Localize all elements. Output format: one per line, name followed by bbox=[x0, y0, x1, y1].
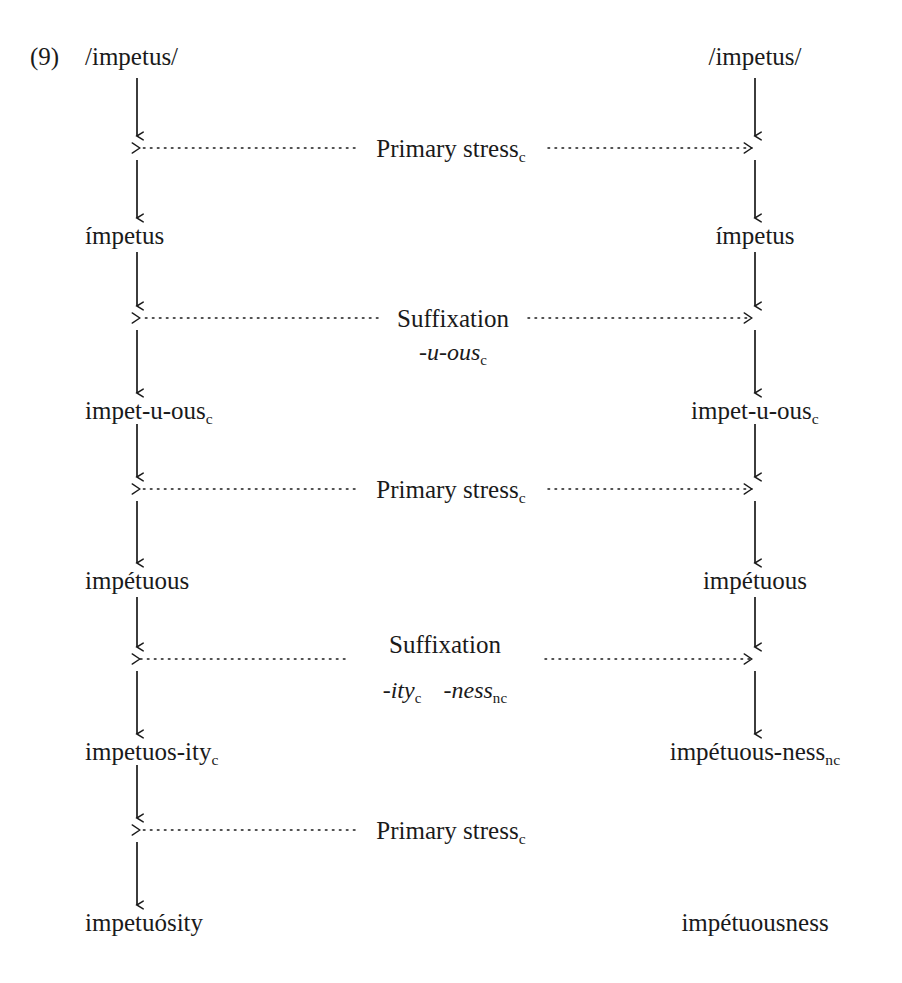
right-form-impet-u-ous-sub: c bbox=[812, 410, 819, 427]
rule-label-primary-stress-3: Primary stressc bbox=[367, 818, 534, 843]
left-form-impetus: ímpetus bbox=[85, 223, 164, 248]
affix-u-ous-sub: c bbox=[480, 352, 487, 368]
rule-label-primary-stress-2: Primary stressc bbox=[367, 477, 534, 502]
left-form-impet-u-ous-text: impet-u-ous bbox=[85, 397, 206, 424]
right-form-impetuous-ness: impétuous-nessnc bbox=[670, 739, 841, 764]
left-form-impetuos-ity-text: impetuos-ity bbox=[85, 738, 211, 765]
right-form-impetuous: impétuous bbox=[703, 568, 807, 593]
rule-label-primary-stress-3-text: Primary stress bbox=[376, 817, 518, 844]
rule-label-primary-stress-2-sub: c bbox=[519, 489, 526, 506]
affix-ness-sub: nc bbox=[493, 690, 507, 706]
right-form-impetuousness: impétuousness bbox=[681, 910, 828, 935]
right-form-impetus: ímpetus bbox=[715, 223, 794, 248]
example-number: (9) bbox=[30, 44, 59, 69]
right-form-impet-u-ous: impet-u-ousc bbox=[691, 398, 819, 423]
left-form-impet-u-ous-sub: c bbox=[206, 410, 213, 427]
right-form-impetuous-ness-text: impétuous-ness bbox=[670, 738, 826, 765]
right-form-impet-u-ous-text: impet-u-ous bbox=[691, 397, 812, 424]
right-form-input: /impetus/ bbox=[708, 44, 801, 69]
rule-label-suffixation-1-text: Suffixation bbox=[397, 305, 509, 332]
affix-ness: -ness bbox=[444, 677, 493, 703]
left-form-impetuosity: impetuósity bbox=[85, 910, 203, 935]
affix-ity: -ity bbox=[383, 677, 415, 703]
rule-label-primary-stress-2-text: Primary stress bbox=[376, 476, 518, 503]
rule-label-suffixation-1: Suffixation bbox=[388, 306, 518, 331]
rule-label-primary-stress-1-sub: c bbox=[519, 148, 526, 165]
left-form-impetuous: impétuous bbox=[85, 568, 189, 593]
rule-label-primary-stress-1: Primary stressc bbox=[367, 136, 534, 161]
rule-label-primary-stress-1-text: Primary stress bbox=[376, 135, 518, 162]
rule-affix-suffixation-2: -ityc-nessnc bbox=[383, 678, 508, 702]
right-form-impetuous-ness-sub: nc bbox=[825, 751, 840, 768]
rule-affix-suffixation-1: -u-ousc bbox=[419, 340, 487, 364]
left-form-impetuos-ity: impetuos-ityc bbox=[85, 739, 218, 764]
affix-ity-sub: c bbox=[415, 690, 422, 706]
rule-label-primary-stress-3-sub: c bbox=[519, 830, 526, 847]
left-form-impetuos-ity-sub: c bbox=[211, 751, 218, 768]
affix-u-ous: -u-ous bbox=[419, 339, 480, 365]
left-form-input: /impetus/ bbox=[85, 44, 178, 69]
left-form-impet-u-ous: impet-u-ousc bbox=[85, 398, 213, 423]
rule-label-suffixation-2-text: Suffixation bbox=[389, 631, 501, 658]
rule-label-suffixation-2: Suffixation bbox=[380, 632, 510, 657]
